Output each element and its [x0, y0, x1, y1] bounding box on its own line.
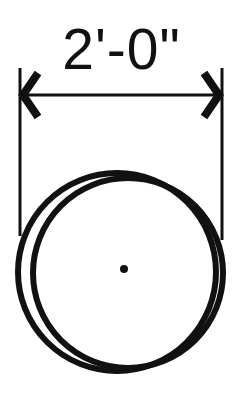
drawing-canvas: 2'-0" — [0, 0, 233, 394]
dimension-drawing — [0, 0, 233, 394]
outer-circle — [18, 173, 216, 371]
inner-circle — [33, 178, 223, 368]
center-point-icon — [120, 265, 128, 273]
